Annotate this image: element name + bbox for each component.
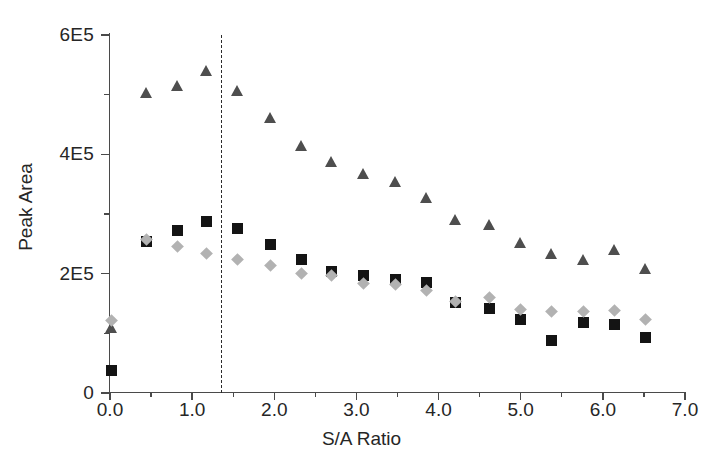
data-point-square [232, 223, 243, 234]
y-tick-minor [104, 94, 109, 95]
data-point-diamond [200, 247, 213, 260]
data-point-triangle [545, 248, 557, 259]
y-tick-label: 6E5 [6, 25, 94, 44]
data-point-triangle [639, 263, 651, 274]
x-tick-minor [150, 393, 151, 397]
data-point-square [578, 317, 589, 328]
data-point-square [296, 254, 307, 265]
x-tick-label: 3.0 [321, 400, 391, 419]
data-point-square [265, 239, 276, 250]
y-tick-major [101, 392, 109, 393]
data-point-square [546, 335, 557, 346]
chart-figure: 02E54E56E5 0.01.02.03.04.05.06.07.0 Peak… [0, 0, 723, 464]
data-point-square [172, 225, 183, 236]
x-tick-minor [233, 393, 234, 397]
x-axis-title: S/A Ratio [0, 428, 723, 450]
x-tick-minor [479, 393, 480, 397]
data-point-triangle [295, 140, 307, 151]
data-point-triangle [200, 65, 212, 76]
x-tick-label: 1.0 [157, 400, 227, 419]
y-axis-title: Peak Area [15, 117, 37, 297]
data-point-diamond [608, 304, 621, 317]
data-point-diamond [231, 254, 244, 267]
data-point-triangle [231, 85, 243, 96]
data-point-triangle [420, 192, 432, 203]
data-point-triangle [140, 87, 152, 98]
data-point-triangle [483, 219, 495, 230]
data-point-triangle [389, 176, 401, 187]
data-point-diamond [171, 240, 184, 253]
data-point-triangle [171, 80, 183, 91]
x-tick-minor [315, 393, 316, 397]
y-tick-major [101, 273, 109, 274]
data-point-diamond [295, 267, 308, 280]
optimum-ratio-line [221, 35, 222, 393]
x-tick-minor [643, 393, 644, 397]
data-point-square [106, 365, 117, 376]
x-tick-label: 7.0 [650, 400, 720, 419]
x-tick-label: 0.0 [75, 400, 145, 419]
data-point-triangle [514, 237, 526, 248]
y-tick-major [101, 154, 109, 155]
x-tick-label: 4.0 [404, 400, 474, 419]
data-point-square [609, 319, 620, 330]
data-point-square [201, 216, 212, 227]
x-tick-label: 6.0 [568, 400, 638, 419]
y-tick-minor [104, 213, 109, 214]
y-axis-line [109, 33, 110, 394]
y-tick-major [101, 34, 109, 35]
data-point-diamond [639, 313, 652, 326]
data-point-diamond [264, 259, 277, 272]
data-point-triangle [608, 244, 620, 255]
data-point-triangle [264, 112, 276, 123]
data-point-square [484, 303, 495, 314]
x-tick-label: 2.0 [239, 400, 309, 419]
data-point-diamond [546, 305, 559, 318]
y-tick-minor [104, 333, 109, 334]
x-tick-label: 5.0 [486, 400, 556, 419]
x-tick-minor [397, 393, 398, 397]
data-point-triangle [325, 156, 337, 167]
data-point-triangle [577, 254, 589, 265]
data-point-triangle [449, 214, 461, 225]
x-tick-minor [561, 393, 562, 397]
data-point-triangle [357, 168, 369, 179]
data-point-square [640, 332, 651, 343]
